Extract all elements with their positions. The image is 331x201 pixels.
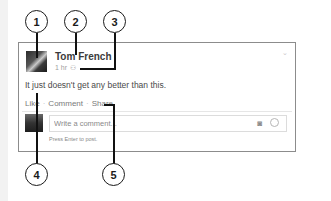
callout-line-1 xyxy=(36,33,38,58)
smiley-icon[interactable] xyxy=(270,118,279,127)
friends-icon: ⚇ xyxy=(70,64,76,71)
comment-input[interactable] xyxy=(54,117,234,130)
camera-icon[interactable]: ◙ xyxy=(257,119,262,128)
comment-field[interactable]: ◙ xyxy=(49,115,287,132)
background-strip xyxy=(0,0,8,201)
separator: · xyxy=(86,99,89,108)
callout-line-3-h xyxy=(80,68,116,70)
post-actions: Like·Comment·Share xyxy=(25,99,113,108)
post-meta: 1 hr⚇ xyxy=(55,64,76,72)
commenter-avatar xyxy=(25,114,43,132)
post-text: It just doesn't get any better than this… xyxy=(25,80,166,90)
callout-4: 4 xyxy=(25,163,48,186)
chevron-down-icon[interactable]: ⌄ xyxy=(282,49,288,57)
callout-1: 1 xyxy=(25,10,48,33)
press-enter-hint: Press Enter to post. xyxy=(49,136,97,142)
comment-link[interactable]: Comment xyxy=(48,99,83,108)
callout-5: 5 xyxy=(102,163,125,186)
callout-line-5 xyxy=(113,104,115,164)
callout-line-2 xyxy=(75,33,77,55)
callout-line-5-h xyxy=(104,104,115,106)
divider xyxy=(22,111,292,112)
author-name[interactable]: Tom French xyxy=(55,51,111,62)
post-card: Tom French 1 hr⚇ ⌄ It just doesn't get a… xyxy=(18,42,296,152)
callout-3: 3 xyxy=(103,10,126,33)
callout-line-4 xyxy=(36,93,38,164)
callout-2: 2 xyxy=(64,10,87,33)
separator: · xyxy=(43,99,46,108)
post-time[interactable]: 1 hr xyxy=(55,64,67,71)
callout-line-3 xyxy=(114,33,116,69)
